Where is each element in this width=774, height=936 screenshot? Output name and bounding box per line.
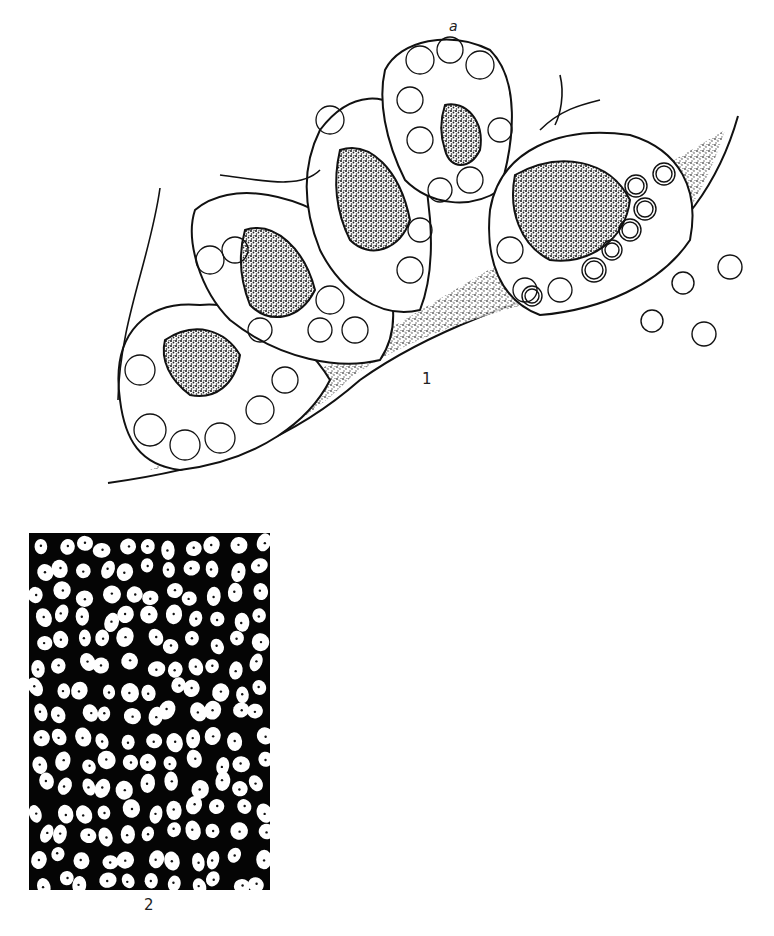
panel-1-drawing (0, 0, 774, 500)
annotation-a: a (449, 18, 458, 34)
panel-1-label: 1 (422, 370, 432, 388)
panel-2-micrograph (29, 533, 270, 890)
panel-2-label: 2 (144, 896, 154, 914)
cell-field (29, 533, 270, 890)
